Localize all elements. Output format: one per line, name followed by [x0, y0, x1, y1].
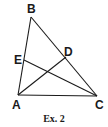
triangle-diagram: B E D A C Ex. 2	[0, 0, 108, 127]
label-c: C	[95, 98, 104, 112]
label-d: D	[64, 45, 73, 59]
label-e: E	[14, 53, 22, 67]
segment-ce	[24, 60, 97, 96]
segment-ac	[18, 95, 97, 96]
label-b: B	[27, 2, 36, 16]
figure-caption: Ex. 2	[43, 113, 65, 124]
label-a: A	[12, 98, 21, 112]
segment-ad	[18, 57, 66, 95]
